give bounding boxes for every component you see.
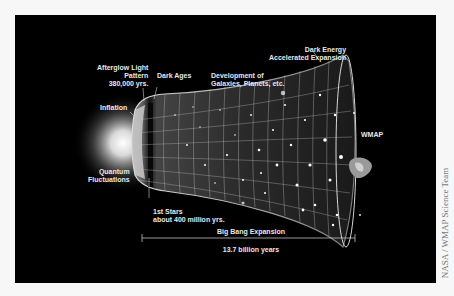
inflation-label: Inflation: [100, 104, 127, 112]
universe-timeline-diagram: Afterglow Light Pattern 380,000 yrs. Dar…: [15, 15, 436, 283]
funnel-illustration: [15, 15, 436, 283]
afterglow-label: Afterglow Light Pattern 380,000 yrs.: [97, 64, 148, 88]
image-credit: NASA / WMAP Science Team: [436, 150, 454, 296]
big-bang-expansion-label: Big Bang Expansion: [201, 228, 301, 236]
first-stars-label: 1st Stars about 400 million yrs.: [153, 208, 225, 224]
development-label: Development of Galaxies, Planets, etc.: [211, 72, 285, 88]
duration-label: 13.7 billion years: [201, 246, 301, 254]
credit-text: NASA / WMAP Science Team: [440, 168, 450, 279]
quantum-fluctuations-label: Quantum Fluctuations: [88, 168, 130, 184]
dark-energy-label: Dark Energy Accelerated Expansion: [269, 46, 346, 62]
dark-ages-label: Dark Ages: [157, 72, 191, 80]
wmap-label: WMAP: [361, 131, 383, 139]
